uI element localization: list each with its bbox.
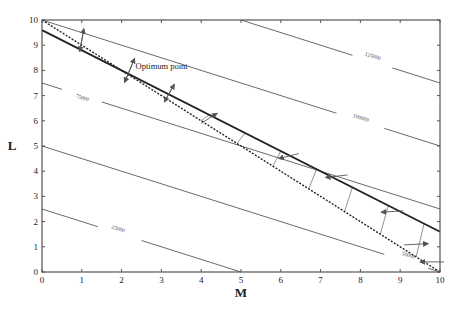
y-tick-label: 9 xyxy=(34,40,39,50)
arrow-icon xyxy=(404,244,428,245)
isocost-line xyxy=(42,209,98,227)
x-tick-label: 9 xyxy=(398,275,403,285)
y-tick-label: 2 xyxy=(34,217,39,227)
arrow-icons xyxy=(80,29,444,262)
x-tick-label: 5 xyxy=(239,275,244,285)
isocost-line xyxy=(241,20,352,55)
isocost-line xyxy=(102,102,440,209)
arrow-icon xyxy=(125,58,135,82)
y-tick-label: 0 xyxy=(34,267,39,277)
x-tick-label: 3 xyxy=(159,275,164,285)
y-tick-label: 10 xyxy=(29,15,39,25)
hatch-line xyxy=(416,224,424,257)
x-tick-label: 10 xyxy=(436,275,446,285)
isocost-label: 50000 xyxy=(401,250,416,260)
isocost-line xyxy=(384,128,440,146)
hatch-line xyxy=(237,133,245,144)
isocost-label: 25000 xyxy=(111,224,126,234)
isocost-label: 125000 xyxy=(364,51,382,62)
x-tick-label: 1 xyxy=(80,275,85,285)
isocost-line xyxy=(42,146,384,254)
x-tick-label: 7 xyxy=(318,275,323,285)
y-tick-label: 1 xyxy=(34,242,39,252)
constraint-line xyxy=(42,30,440,232)
x-tick-label: 8 xyxy=(358,275,363,285)
isocost-line xyxy=(142,241,242,273)
y-tick-label: 6 xyxy=(34,116,39,126)
y-tick-label: 4 xyxy=(34,166,39,176)
y-tick-label: 7 xyxy=(34,91,39,101)
plot-area: 012345678910012345678910 250005000075000… xyxy=(0,0,461,309)
y-tick-label: 5 xyxy=(34,141,39,151)
line-labels: 250005000075000100000125000 xyxy=(75,51,417,260)
x-tick-label: 4 xyxy=(199,275,204,285)
isocost-line xyxy=(392,68,440,83)
hatch-line xyxy=(201,115,209,121)
y-tick-label: 8 xyxy=(34,65,39,75)
y-tick-label: 3 xyxy=(34,191,39,201)
hatch-region xyxy=(201,115,424,257)
hatch-line xyxy=(380,205,388,234)
optimum-point-annotation: Optimum point xyxy=(136,61,189,71)
y-axis-label: L xyxy=(8,138,17,153)
isocost-line xyxy=(42,83,62,89)
x-tick-label: 0 xyxy=(40,275,45,285)
x-axis-label: M xyxy=(235,285,247,300)
x-tick-label: 6 xyxy=(279,275,284,285)
isocost-label: 75000 xyxy=(75,93,90,103)
chart: 012345678910012345678910 250005000075000… xyxy=(0,0,461,309)
isocost-label: 100000 xyxy=(352,112,370,123)
hatch-line xyxy=(344,187,352,211)
x-tick-label: 2 xyxy=(119,275,124,285)
hatch-line xyxy=(309,169,317,189)
